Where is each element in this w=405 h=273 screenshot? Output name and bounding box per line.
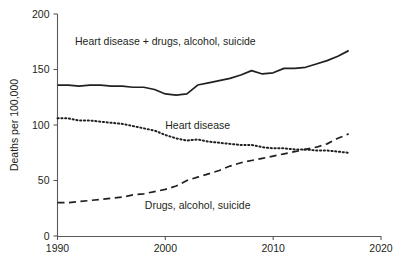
series-line-3 xyxy=(58,134,349,203)
y-tick-label: 50 xyxy=(38,174,50,186)
series-line-1 xyxy=(58,51,349,95)
series-label-drugs: Drugs, alcohol, suicide xyxy=(145,199,251,211)
series-label-heart: Heart disease xyxy=(165,119,230,131)
line-chart: 050100150200 1990200020102020 Deaths per… xyxy=(0,0,405,273)
y-tick-label: 150 xyxy=(32,63,50,75)
x-tick-label: 2000 xyxy=(154,242,178,254)
x-tick-label: 2020 xyxy=(369,242,393,254)
y-tick-label: 200 xyxy=(32,8,50,20)
y-tick-label: 100 xyxy=(32,119,50,131)
chart-container: 050100150200 1990200020102020 Deaths per… xyxy=(0,0,405,273)
y-axis-title: Deaths per 100,000 xyxy=(8,79,20,171)
series-annotations: Heart disease + drugs, alcohol, suicideH… xyxy=(75,35,256,211)
x-tick-label: 2010 xyxy=(261,242,285,254)
y-tick-label: 0 xyxy=(44,230,50,242)
x-axis-ticks: 1990200020102020 xyxy=(46,236,393,254)
x-tick-label: 1990 xyxy=(46,242,70,254)
y-axis-ticks: 050100150200 xyxy=(32,8,58,242)
series-label-combined: Heart disease + drugs, alcohol, suicide xyxy=(75,35,256,47)
